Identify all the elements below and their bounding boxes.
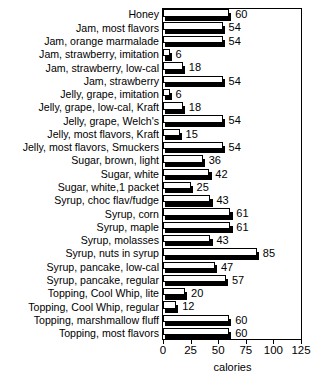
bar-row: Topping, Cool Whip, regular12 (0, 300, 315, 313)
category-label: Jelly, most flavors, Smuckers (23, 141, 159, 154)
bar-row: Jelly, most flavors, Kraft15 (0, 128, 315, 141)
bar-row: Syrup, maple61 (0, 220, 315, 233)
bar-value-label: 36 (209, 154, 221, 167)
bar-face (163, 208, 230, 215)
bar-row: Jam, orange marmalade54 (0, 35, 315, 48)
bar-face (163, 49, 170, 56)
bar-row: Topping, most flavors60 (0, 327, 315, 340)
bar-face (163, 222, 230, 229)
category-label: Sugar, brown, light (71, 154, 159, 167)
bar-row: Syrup, pancake, low-cal47 (0, 260, 315, 273)
bar-value-label: 54 (229, 114, 241, 127)
bar-row: Syrup, nuts in syrup85 (0, 247, 315, 260)
bar-rows-container: Honey60Jam, most flavors54Jam, orange ma… (0, 8, 315, 340)
bar-face (163, 142, 223, 149)
bar (163, 155, 206, 167)
bar-face (163, 129, 180, 136)
bar-row: Sugar, white,1 packet25 (0, 181, 315, 194)
bar-face (163, 262, 215, 269)
bar (163, 9, 232, 21)
category-label: Jam, most flavors (76, 22, 159, 35)
category-label: Syrup, maple (97, 221, 159, 234)
category-label: Jelly, grape, Welch's (63, 115, 159, 128)
category-label: Topping, Cool Whip, lite (48, 287, 159, 300)
bar-value-label: 25 (197, 181, 209, 194)
x-axis: calories 0255075100125 (162, 339, 303, 379)
bar-face (163, 9, 229, 16)
category-label: Jelly, grape, low-cal, Kraft (39, 101, 160, 114)
bar-row: Syrup, pancake, regular57 (0, 274, 315, 287)
bar-chart: TOPPINGS AND JAMS Honey60Jam, most flavo… (0, 0, 315, 379)
bar (163, 315, 232, 327)
bar-value-label: 18 (189, 101, 201, 114)
bar-value-label: 54 (229, 141, 241, 154)
bar-face (163, 182, 191, 189)
x-axis-title: calories (162, 361, 303, 374)
bar (163, 49, 173, 61)
bar-value-label: 60 (235, 314, 247, 327)
bar (163, 76, 226, 88)
bar-row: Jelly, grape, Welch's54 (0, 114, 315, 127)
category-label: Jam, strawberry (84, 75, 159, 88)
category-label: Topping, most flavors (59, 327, 159, 340)
category-label: Topping, Cool Whip, regular (28, 301, 159, 314)
x-tick-label: 100 (264, 344, 283, 357)
bar-face (163, 288, 185, 295)
bar (163, 129, 183, 141)
bar-value-label: 54 (229, 21, 241, 34)
bar-value-label: 6 (176, 48, 182, 61)
bar-value-label: 15 (186, 128, 198, 141)
bar-row: Jam, strawberry, imitation6 (0, 48, 315, 61)
x-tick-label: 50 (212, 344, 225, 357)
bar-value-label: 57 (232, 274, 244, 287)
bar-face (163, 89, 170, 96)
chart-title: TOPPINGS AND JAMS (163, 0, 302, 3)
bar-face (163, 115, 223, 122)
bar-row: Topping, marshmallow fluff60 (0, 313, 315, 326)
bar-value-label: 12 (182, 300, 194, 313)
bar-value-label: 54 (229, 35, 241, 48)
category-label: Syrup, pancake, low-cal (47, 261, 159, 274)
bar-value-label: 85 (263, 247, 275, 260)
bar (163, 248, 260, 260)
bar-value-label: 61 (236, 221, 248, 234)
category-label: Sugar, white,1 packet (58, 181, 159, 194)
category-label: Syrup, nuts in syrup (65, 247, 159, 260)
bar-row: Syrup, molasses43 (0, 234, 315, 247)
bar-face (163, 301, 176, 308)
bar-row: Sugar, brown, light36 (0, 154, 315, 167)
category-label: Sugar, white (101, 168, 159, 181)
category-label: Syrup, corn (105, 208, 159, 221)
bar (163, 62, 186, 74)
bar (163, 142, 226, 154)
bar-value-label: 20 (191, 287, 203, 300)
bar-row: Jelly, grape, low-cal, Kraft18 (0, 101, 315, 114)
bar-value-label: 61 (236, 207, 248, 220)
bar-value-label: 18 (189, 61, 201, 74)
category-label: Honey (128, 8, 159, 21)
bar (163, 182, 194, 194)
category-label: Jam, orange marmalade (44, 35, 159, 48)
category-label: Jelly, most flavors, Kraft (47, 128, 159, 141)
category-label: Syrup, pancake, regular (47, 274, 159, 287)
category-label: Syrup, choc flav/fudge (54, 194, 159, 207)
bar (163, 22, 226, 34)
x-tick-label: 25 (184, 344, 197, 357)
bar-face (163, 315, 229, 322)
bar-row: Jam, strawberry, low-cal18 (0, 61, 315, 74)
bar (163, 115, 226, 127)
bar-value-label: 60 (235, 327, 247, 340)
bar (163, 235, 213, 247)
bar-row: Honey60 (0, 8, 315, 21)
bar-row: Sugar, white42 (0, 167, 315, 180)
bar-row: Topping, Cool Whip, lite20 (0, 287, 315, 300)
bar (163, 222, 233, 234)
bar (163, 301, 179, 313)
bar (163, 102, 186, 114)
bar (163, 275, 229, 287)
bar-value-label: 42 (215, 168, 227, 181)
bar-row: Jam, most flavors54 (0, 21, 315, 34)
bar-face (163, 169, 209, 176)
bar-row: Syrup, corn61 (0, 207, 315, 220)
bar (163, 195, 213, 207)
